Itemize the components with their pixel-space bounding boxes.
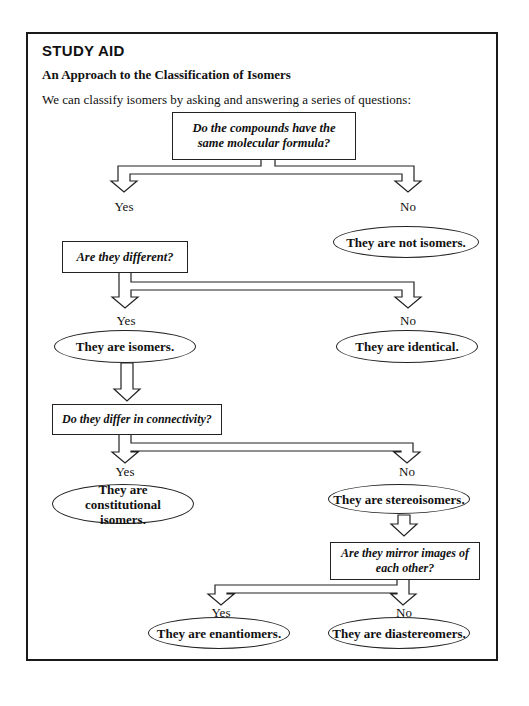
q1-no-label: No [388,199,428,215]
stereoisomers-down-arrow [391,515,417,536]
q2-split-arrow [112,273,421,308]
question-different: Are they different? [62,241,188,273]
result-enantiomers: They are enantiomers. [148,617,290,649]
q3-split-arrow [112,435,420,463]
result-identical: They are identical. [336,330,478,363]
result-constitutional-isomers: They are constitutional isomers. [52,484,194,524]
isomers-down-arrow [114,363,140,401]
result-diastereomers: They are diastereomers. [328,617,470,649]
question-mirror-images: Are they mirror images of each other? [330,542,480,580]
result-stereoisomers: They are stereoisomers. [328,484,470,514]
q3-yes-label: Yes [105,464,145,480]
q2-yes-label: Yes [106,313,146,329]
result-isomers: They are isomers. [54,330,196,363]
question-connectivity: Do they differ in connectivity? [52,404,222,435]
result-not-isomers: They are not isomers. [333,226,479,258]
q1-split-arrow [111,160,421,192]
q2-no-label: No [388,313,428,329]
question-same-formula: Do the compounds have the same molecular… [172,112,356,160]
q3-no-label: No [387,464,427,480]
q4-split-arrow [208,580,416,605]
q1-yes-label: Yes [104,199,144,215]
